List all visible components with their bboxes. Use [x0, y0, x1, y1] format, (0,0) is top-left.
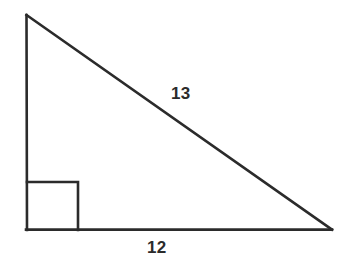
triangle-hypotenuse	[27, 15, 333, 230]
triangle-vertical-leg	[27, 15, 28, 230]
right-triangle-graphic	[0, 0, 345, 270]
hypotenuse-length-label: 13	[171, 85, 191, 102]
base-length-label: 12	[147, 239, 167, 256]
figure-canvas: 13 12	[0, 0, 345, 270]
right-angle-square-icon	[27, 182, 78, 230]
